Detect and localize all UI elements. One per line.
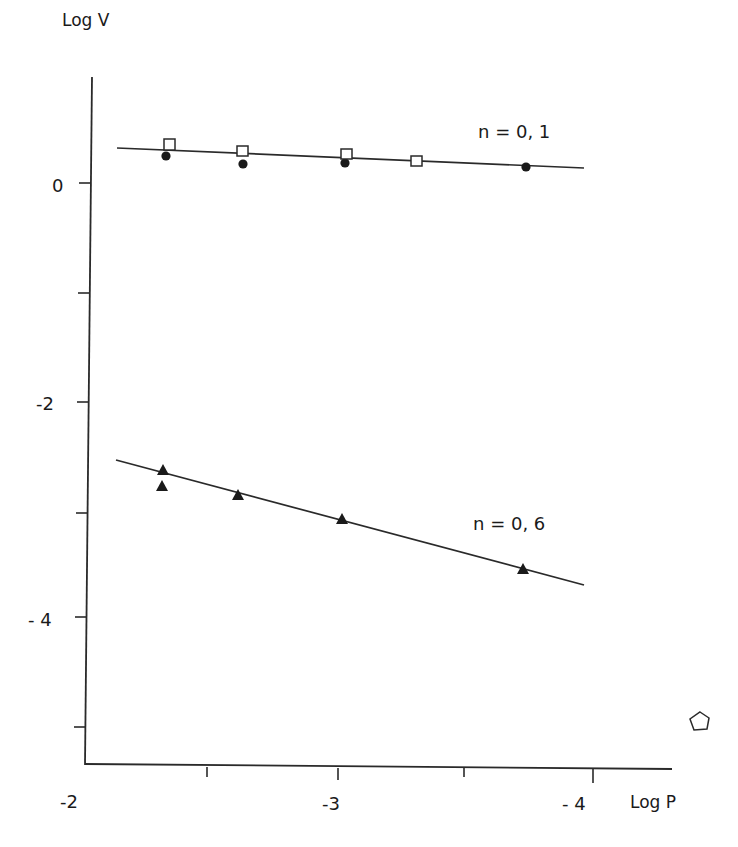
annotation-n-0-6: n = 0, 6 (473, 513, 545, 534)
x-tick-label-minus-4: - 4 (562, 793, 586, 814)
axes (85, 77, 672, 769)
y-tick-label-minus-2: -2 (36, 393, 54, 414)
data-point-circle (521, 162, 530, 171)
y-axis-title: Log V (62, 10, 110, 30)
x-ticks (207, 767, 593, 783)
chart: Log V Log P 0 -2 - 4 -2 -3 - 4 (0, 0, 738, 847)
x-tick-label-minus-2: -2 (60, 791, 78, 812)
y-axis-line (85, 77, 92, 765)
data-point-circle (340, 158, 349, 167)
data-point-square (237, 146, 248, 156)
x-axis-title: Log P (630, 792, 676, 812)
x-axis-line (85, 764, 672, 769)
data-point-square (341, 149, 352, 159)
data-point-triangle (157, 464, 169, 475)
data-point-triangle (156, 480, 168, 491)
y-tick-label-minus-4: - 4 (28, 609, 52, 630)
pentagon-icon (690, 712, 709, 730)
x-tick-label-minus-3: -3 (322, 793, 340, 814)
data-point-triangle (517, 563, 529, 574)
data-point-square (411, 156, 422, 166)
data-point-square (164, 139, 175, 150)
annotation-n-0-1: n = 0, 1 (478, 121, 550, 142)
data-point-circle (161, 151, 170, 160)
data-point-circle (238, 159, 247, 168)
y-tick-label-0: 0 (52, 175, 63, 196)
